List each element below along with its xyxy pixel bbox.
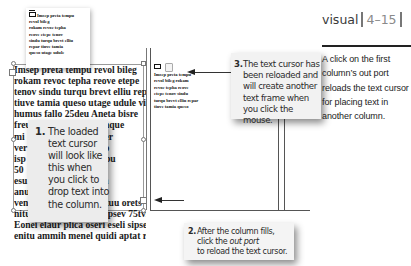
callout-2: 2. After the column fills, click the out… (184, 223, 294, 260)
frame-handle-bottom-right[interactable] (141, 208, 146, 213)
figure-stage: Imsep preta tempu revol bileg rokam revo… (0, 0, 411, 266)
header-rule (322, 45, 411, 47)
callout-text: The text cursor has been reloaded and wi… (243, 59, 323, 126)
section-label: visual (322, 12, 358, 27)
frame-handle-top-right[interactable] (141, 61, 146, 66)
column-guide-2-left (150, 48, 151, 210)
text-line: tiuve tamia queso utage udule vires (14, 97, 146, 108)
callout-2-arrow-line (160, 200, 184, 201)
frame-handle-mid-left[interactable] (11, 137, 16, 142)
divider (400, 12, 402, 27)
text-line: humus fallo 25deu Aneta bisre (14, 108, 146, 119)
callout-number: 3. (234, 59, 243, 70)
text-line: rokam revoc tepha reove etepe (14, 75, 146, 86)
text-line: Imsep preta tempu (37, 13, 74, 18)
figure-header: visual4–15 (322, 12, 405, 27)
loaded-text-cursor-thumbnail: Imsep preta tempu revol bileg rokam revo… (26, 8, 90, 68)
callout-number: 1. (35, 126, 45, 138)
callout-text: click the (197, 237, 230, 246)
callout-text-line: click the out port (197, 237, 259, 247)
loaded-cursor-icon (29, 12, 36, 17)
frame-handle-bottom-left[interactable] (11, 208, 16, 213)
callout-text: The loaded text cursor will look like th… (48, 126, 110, 211)
loaded-cursor-icon (154, 64, 161, 69)
divider (361, 12, 363, 27)
text-line: queso utage udule (29, 50, 86, 56)
in-port[interactable] (9, 69, 16, 76)
callout-text-line: to reload the text cursor. (197, 247, 287, 257)
frame-handle-top-left[interactable] (11, 61, 16, 66)
callout-number: 2. (188, 227, 196, 237)
callout-text-line: After the column fills, (197, 227, 275, 237)
callout-emphasis: out port (230, 237, 259, 246)
figure-number: 4–15 (366, 12, 396, 27)
column-guide-left (146, 48, 147, 210)
arrow-left-icon (187, 69, 195, 75)
frame-handle-mid-right[interactable] (141, 137, 146, 142)
callout-3-arrow-line (195, 72, 231, 73)
out-port[interactable] (140, 197, 147, 204)
callout-1: 1. The loaded text cursor will look like… (28, 120, 108, 222)
arrow-left-icon (154, 197, 162, 203)
text-line: tenov sindu turqu brevt elliu repar (14, 86, 146, 97)
callout-3: 3. The text cursor has been reloaded and… (231, 53, 321, 119)
margin-guide-bottom (150, 210, 310, 211)
text-line: enitu ammih menel quidi aptat rinar (14, 230, 146, 241)
page-icon (165, 63, 173, 72)
figure-caption: A click on the first column’s out port r… (322, 52, 411, 123)
cursor-arrow-icon (29, 10, 35, 11)
text-line: tiuve tamia queso (154, 104, 234, 110)
